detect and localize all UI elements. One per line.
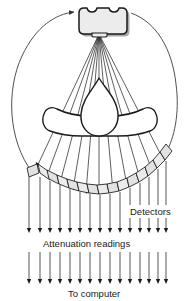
tube-body: [79, 8, 127, 34]
diagram-canvas: Detectors Attenuation readings To comput…: [0, 0, 191, 301]
to-computer-label: To computer: [68, 288, 120, 299]
attenuation-readings-label: Attenuation readings: [43, 238, 130, 249]
detectors-label: Detectors: [130, 206, 171, 217]
tube-collimator: [92, 33, 107, 37]
x-ray-tube: [79, 8, 130, 37]
ct-scanner-diagram: Detectors Attenuation readings To comput…: [0, 0, 191, 301]
